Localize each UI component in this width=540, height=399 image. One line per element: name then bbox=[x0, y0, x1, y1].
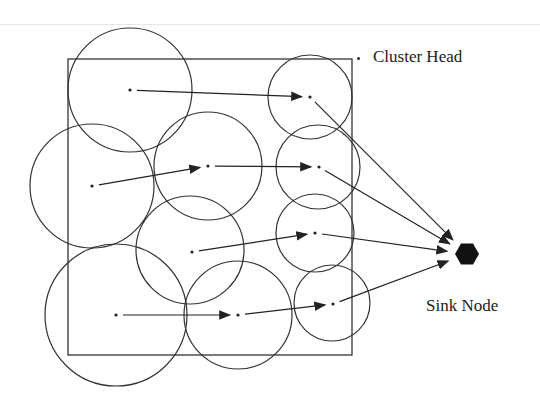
legend-cluster-head-label: Cluster Head bbox=[373, 47, 462, 67]
cluster-head-c2 bbox=[90, 184, 93, 187]
link-c7-to-sink bbox=[322, 234, 447, 251]
link-c10-to-c8 bbox=[245, 305, 325, 314]
cluster-range-c4 bbox=[136, 196, 244, 304]
cluster-head-c9 bbox=[114, 313, 117, 316]
link-c2-to-c3 bbox=[99, 167, 200, 184]
cluster-head-c5 bbox=[308, 95, 311, 98]
link-c3-to-c6 bbox=[215, 166, 311, 167]
cluster-head-c10 bbox=[236, 313, 239, 316]
cluster-head-c1 bbox=[128, 88, 131, 91]
cluster-heads bbox=[90, 88, 334, 316]
sink-node-label: Sink Node bbox=[426, 296, 498, 316]
link-c1-to-c5 bbox=[137, 90, 302, 96]
sensor-field-boundary bbox=[68, 59, 352, 355]
cluster-head-c6 bbox=[317, 165, 320, 168]
link-c4-to-c7 bbox=[199, 234, 307, 251]
cluster-head-c7 bbox=[313, 231, 316, 234]
cluster-head-legend-icon bbox=[357, 57, 360, 60]
cluster-head-c4 bbox=[190, 250, 193, 253]
link-c5-to-sink bbox=[315, 102, 453, 240]
sink-node-icon bbox=[455, 244, 479, 265]
cluster-head-c3 bbox=[206, 164, 209, 167]
cluster-ranges bbox=[30, 28, 370, 386]
cluster-head-c8 bbox=[331, 302, 334, 305]
